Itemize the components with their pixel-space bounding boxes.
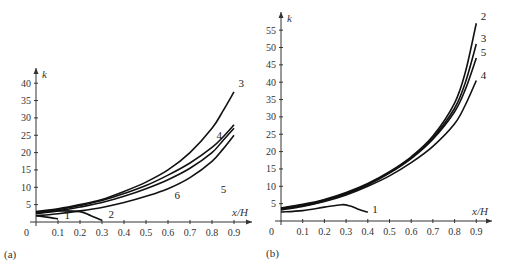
x-tick-label: 0.7: [184, 227, 197, 238]
series-label-1: 1: [372, 203, 378, 215]
y-tick-label: 30: [266, 111, 276, 122]
y-tick-label: 40: [266, 77, 276, 88]
series-label-3: 3: [238, 77, 244, 89]
y-tick-label: 35: [266, 94, 276, 105]
series-label-3: 3: [481, 32, 487, 44]
y-axis-label: k: [287, 12, 293, 24]
y-tick-label: 55: [266, 25, 276, 36]
x-tick-label: 0.1: [296, 226, 309, 237]
y-tick-label: 20: [21, 147, 31, 158]
y-axis-label: k: [42, 68, 48, 80]
x-axis-arrow-icon: [486, 219, 492, 224]
x-tick-label: 0.8: [448, 226, 461, 237]
y-tick-label: 5: [26, 199, 31, 210]
x-tick-label: 0.4: [118, 227, 131, 238]
series-line-5: [36, 128, 234, 213]
x-tick-label: 0.5: [383, 226, 396, 237]
series-line-6: [36, 135, 234, 216]
x-tick-label: 0.6: [162, 227, 175, 238]
x-tick-label: 0.2: [318, 226, 331, 237]
panel-b: kx/H00.10.20.30.40.50.60.70.80.951015202…: [266, 10, 492, 260]
x-tick-label: 0.4: [362, 226, 375, 237]
series-line-3: [281, 44, 476, 208]
y-tick-label: 45: [266, 59, 276, 70]
x-tick-label: 0.1: [52, 227, 65, 238]
y-tick-label: 25: [266, 129, 276, 140]
series-label-4: 4: [481, 69, 487, 81]
series-label-2: 2: [481, 10, 487, 22]
y-axis-arrow-icon: [279, 12, 284, 18]
series-label-5: 5: [481, 46, 487, 58]
y-tick-label: 35: [21, 95, 31, 106]
series-line-3: [36, 92, 234, 212]
x-axis-label: x/H: [231, 206, 249, 218]
y-tick-label: 10: [21, 182, 31, 193]
series-label-2: 2: [109, 208, 115, 220]
series-label-6: 6: [175, 189, 181, 201]
x-tick-label: 0.5: [140, 227, 153, 238]
x-tick-label: 0.8: [206, 227, 219, 238]
origin-label: 0: [24, 227, 29, 238]
series-label-1: 1: [65, 209, 71, 221]
y-tick-label: 15: [21, 164, 31, 175]
panel-label: (b): [266, 247, 279, 260]
panel-label: (a): [4, 248, 17, 261]
series-label-4: 4: [216, 129, 222, 141]
panel-a: kx/H00.10.20.30.40.50.60.70.80.951015202…: [4, 68, 252, 261]
series-line-4: [281, 80, 476, 209]
y-tick-label: 20: [266, 146, 276, 157]
x-axis-label: x/H: [471, 205, 489, 217]
y-tick-label: 40: [21, 78, 31, 89]
x-tick-label: 0.3: [96, 227, 109, 238]
x-tick-label: 0.7: [427, 226, 440, 237]
y-tick-label: 10: [266, 181, 276, 192]
y-tick-label: 5: [271, 198, 276, 209]
x-tick-label: 0.9: [228, 227, 241, 238]
series-label-5: 5: [221, 183, 227, 195]
y-tick-label: 25: [21, 130, 31, 141]
figure: kx/H00.10.20.30.40.50.60.70.80.951015202…: [0, 0, 508, 270]
origin-label: 0: [269, 226, 274, 237]
x-tick-label: 0.3: [340, 226, 353, 237]
x-tick-label: 0.2: [74, 227, 87, 238]
y-axis-arrow-icon: [34, 68, 39, 74]
x-tick-label: 0.9: [470, 226, 483, 237]
y-tick-label: 15: [266, 163, 276, 174]
y-tick-label: 30: [21, 112, 31, 123]
x-tick-label: 0.6: [405, 226, 418, 237]
x-axis-arrow-icon: [246, 220, 252, 225]
y-tick-label: 50: [266, 42, 276, 53]
